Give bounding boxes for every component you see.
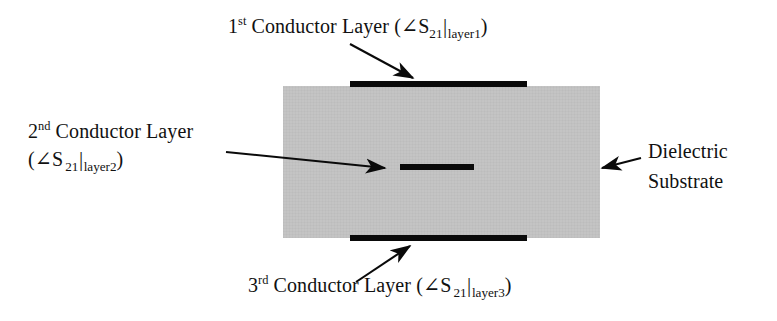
angle-symbol-icon: ∠ [401, 15, 418, 37]
layer1-name: Conductor Layer [251, 15, 389, 37]
leader-line-dielectric-substrate [602, 158, 641, 168]
layer1-s-subscript: 21 [429, 26, 442, 41]
angle-symbol-icon: ∠ [423, 274, 440, 296]
layer2-paren-open: ( [28, 148, 35, 170]
label-conductor-layer-3: 3rd Conductor Layer (∠S21|layer3) [248, 272, 512, 298]
substrate-line-2: Substrate [648, 166, 728, 196]
layer3-paren-close: ) [505, 274, 512, 296]
conductor-layer-1-bar [350, 81, 527, 87]
layer3-vertical-bar: | [467, 272, 471, 297]
layer2-vertical-bar: | [79, 145, 83, 172]
layer1-ordinal-suffix: st [238, 14, 246, 28]
label-dielectric-substrate: Dielectric Substrate [648, 136, 728, 196]
layer3-s-subscript: 21 [453, 285, 466, 300]
layer2-s-subscript: 21 [65, 159, 78, 174]
layer3-ordinal-number: 3 [248, 274, 258, 296]
layer3-name: Conductor Layer [274, 274, 412, 296]
layer3-s-symbol: S [440, 274, 451, 296]
layer2-paren-close: ) [117, 148, 124, 170]
layer2-ordinal-number: 2 [28, 120, 38, 142]
conductor-layer-2-bar [400, 164, 474, 170]
conductor-layer-3-bar [350, 235, 527, 241]
layer1-s-symbol: S [418, 15, 429, 37]
figure-canvas: 1st Conductor Layer (∠S21|layer1) 2nd Co… [0, 0, 777, 321]
label-conductor-layer-1: 1st Conductor Layer (∠S21|layer1) [228, 13, 488, 39]
layer1-vertical-bar: | [443, 13, 447, 38]
layer2-line-2: (∠S21|layer2) [28, 145, 193, 173]
layer2-s-symbol: S [52, 148, 63, 170]
label-conductor-layer-2: 2nd Conductor Layer (∠S21|layer2) [28, 118, 193, 173]
layer1-layer-subscript: layer1 [448, 26, 481, 41]
layer3-ordinal-suffix: rd [258, 273, 268, 287]
layer3-paren-open: ( [416, 274, 423, 296]
leader-line-conductor-layer-1 [350, 44, 413, 78]
layer3-layer-subscript: layer3 [472, 285, 505, 300]
angle-symbol-icon: ∠ [35, 148, 52, 170]
substrate-line-1: Dielectric [648, 136, 728, 166]
layer2-line-1: 2nd Conductor Layer [28, 118, 193, 145]
dielectric-substrate-block [283, 86, 600, 238]
layer2-ordinal-suffix: nd [38, 119, 50, 133]
layer1-ordinal-number: 1 [228, 15, 238, 37]
layer2-name: Conductor Layer [56, 120, 194, 142]
layer2-layer-subscript: layer2 [84, 159, 117, 174]
layer1-paren-open: ( [394, 15, 401, 37]
layer1-paren-close: ) [481, 15, 488, 37]
